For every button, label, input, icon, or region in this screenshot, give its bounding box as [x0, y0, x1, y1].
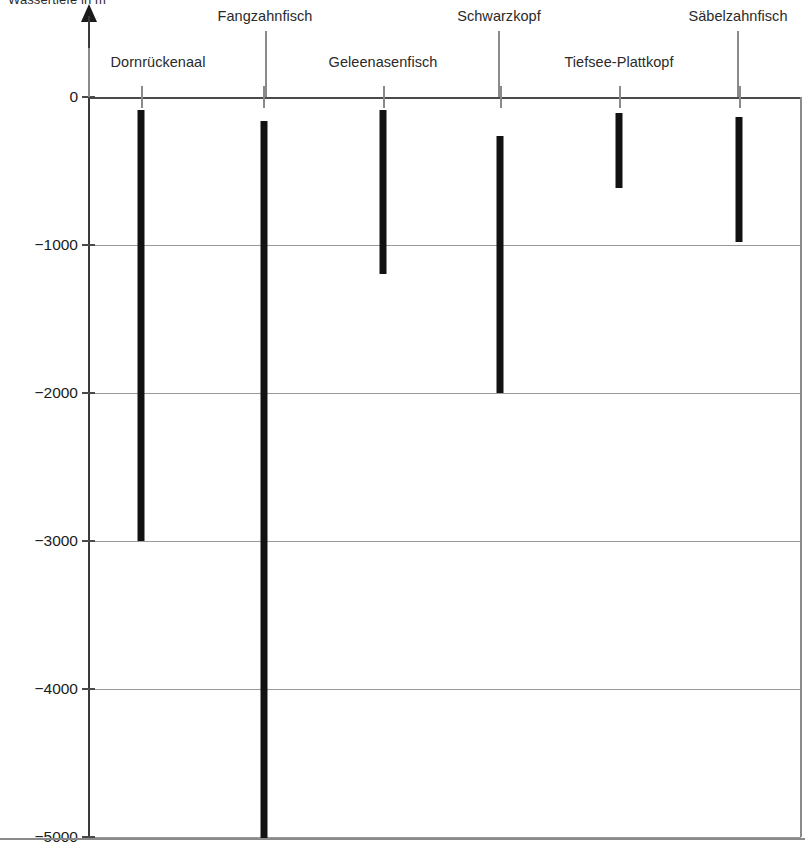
gridline-0: [89, 97, 801, 99]
y-tick-label-5000: −5000: [34, 828, 78, 846]
category-label-saebelzahnfisch: Säbelzahnfisch: [688, 8, 787, 24]
x-tick-fangzahnfisch: [263, 86, 265, 108]
gridline-4000: [89, 689, 801, 690]
y-axis-line: [88, 16, 90, 838]
category-label-schwarzkopf: Schwarzkopf: [457, 8, 541, 24]
x-tick-dornrueckenaal: [141, 86, 143, 108]
category-label-dornrueckenaal: Dornrückenaal: [111, 54, 206, 70]
plot-frame-right: [800, 97, 802, 837]
category-label-fangzahnfisch: Fangzahnfisch: [218, 8, 313, 24]
x-tick-schwarzkopf: [500, 86, 502, 108]
y-tick-label-3000: −3000: [34, 532, 78, 550]
gridline-1000: [89, 245, 801, 246]
gridline-3000: [89, 541, 801, 542]
y-tick-label-4000: −4000: [34, 680, 78, 698]
category-label-tiefsee-plattkopf: Tiefsee-Plattkopf: [564, 54, 673, 70]
depth-bar-fangzahnfisch: [261, 121, 268, 838]
depth-bar-geleenasenfisch: [380, 110, 387, 274]
depth-bar-saebelzahnfisch: [736, 117, 743, 242]
category-separator-1: [265, 31, 267, 97]
y-tick-label-2000: −2000: [34, 384, 78, 402]
y-tick-1000: [82, 244, 95, 246]
y-tick-4000: [82, 688, 95, 690]
x-tick-tiefsee-plattkopf: [619, 86, 621, 108]
y-tick-2000: [82, 392, 95, 394]
x-tick-saebelzahnfisch: [739, 86, 741, 108]
y-tick-3000: [82, 540, 95, 542]
y-tick-label-1000: −1000: [34, 236, 78, 254]
category-separator-0: [88, 48, 90, 97]
depth-range-chart: Wassertiefe in m 0 −1000 −2000 −3000 −40…: [0, 0, 805, 846]
y-tick-label-0: 0: [69, 88, 78, 106]
chart-page: Wassertiefe in m 0 −1000 −2000 −3000 −40…: [0, 0, 805, 846]
category-label-geleenasenfisch: Geleenasenfisch: [329, 54, 438, 70]
depth-bar-tiefsee-plattkopf: [616, 113, 623, 188]
plot-frame-bottom: [0, 838, 805, 840]
depth-bar-schwarzkopf: [497, 136, 504, 393]
depth-bar-dornrueckenaal: [138, 110, 145, 541]
x-tick-geleenasenfisch: [383, 86, 385, 108]
gridline-2000: [89, 393, 801, 394]
